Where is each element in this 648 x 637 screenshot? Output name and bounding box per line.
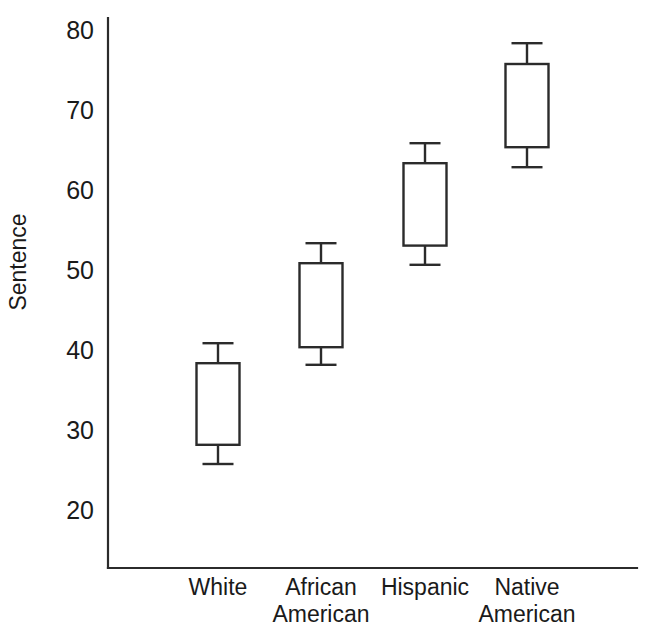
y-tick-label: 20	[66, 496, 94, 524]
y-tick-label: 70	[66, 96, 94, 124]
box-body	[404, 163, 447, 245]
y-axis-tick-labels: 20304050607080	[66, 16, 94, 524]
axes-group	[108, 18, 637, 568]
x-tick-label-line: African	[285, 574, 357, 600]
x-tick-label-line: American	[478, 601, 575, 627]
x-tick-label: Hispanic	[381, 574, 469, 600]
box-plot-item	[300, 243, 343, 365]
boxplot-chart: 20304050607080 WhiteAfricanAmericanHispa…	[0, 0, 648, 637]
box-plot-item	[197, 343, 240, 464]
box-plot-item	[506, 43, 549, 167]
box-plot-series	[197, 43, 549, 464]
y-axis-title: Sentence	[5, 213, 31, 310]
x-tick-label-line: White	[189, 574, 248, 600]
y-tick-label: 50	[66, 256, 94, 284]
y-tick-label: 60	[66, 176, 94, 204]
x-tick-label: NativeAmerican	[478, 574, 575, 627]
x-tick-label: AfricanAmerican	[272, 574, 369, 627]
box-plot-item	[404, 143, 447, 265]
box-body	[300, 263, 343, 347]
x-axis-tick-labels: WhiteAfricanAmericanHispanicNativeAmeric…	[189, 574, 576, 627]
x-tick-label-line: American	[272, 601, 369, 627]
y-tick-label: 30	[66, 416, 94, 444]
box-body	[197, 363, 240, 445]
x-tick-label-line: Native	[494, 574, 559, 600]
y-tick-label: 80	[66, 16, 94, 44]
x-tick-label: White	[189, 574, 248, 600]
x-tick-label-line: Hispanic	[381, 574, 469, 600]
chart-canvas: 20304050607080 WhiteAfricanAmericanHispa…	[0, 0, 648, 637]
y-tick-label: 40	[66, 336, 94, 364]
box-body	[506, 64, 549, 147]
